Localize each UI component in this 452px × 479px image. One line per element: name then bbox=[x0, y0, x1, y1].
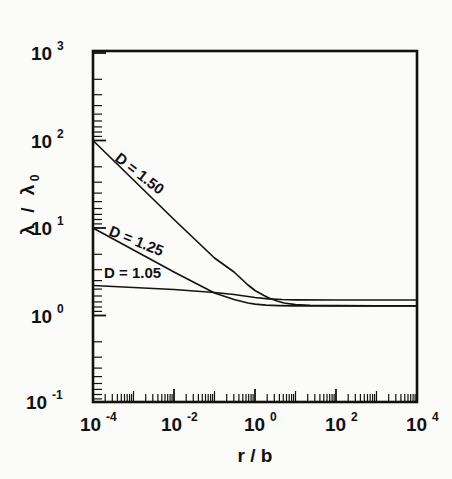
y-tick-exp-1e-1: -1 bbox=[52, 388, 63, 402]
y-tick-label-1e-1: 10 -1 bbox=[26, 388, 63, 413]
y-axis-minor-ticks bbox=[93, 79, 102, 399]
x-tick-label-1e2: 10 2 bbox=[325, 410, 358, 435]
y-tick-exp-1e2: 2 bbox=[57, 127, 64, 141]
log-log-plot: 10 3 10 2 10 1 10 0 10 -1 10 bbox=[0, 0, 452, 479]
x-tick-exp-1e2: 2 bbox=[351, 410, 358, 424]
y-axis-title-numerator: λ bbox=[17, 224, 38, 235]
y-tick-base-1e0: 10 bbox=[31, 306, 52, 327]
curve-label-d-1-05: D = 1.05 bbox=[104, 264, 161, 281]
x-tick-base-1e4: 10 bbox=[406, 414, 427, 435]
x-tick-base-1e-4: 10 bbox=[80, 414, 101, 435]
x-tick-base-1e2: 10 bbox=[325, 414, 346, 435]
x-axis-tick-labels: 10 -4 10 -2 10 0 10 2 10 4 bbox=[80, 410, 439, 435]
y-tick-exp-1e0: 0 bbox=[57, 302, 64, 316]
curve-label-d-1-50: D = 1.50 bbox=[112, 149, 167, 198]
curve-label-d-1-25: D = 1.25 bbox=[107, 222, 166, 259]
y-tick-label-1e2: 10 2 bbox=[31, 127, 64, 152]
y-tick-base-1e2: 10 bbox=[31, 131, 52, 152]
x-tick-label-1e-4: 10 -4 bbox=[80, 410, 117, 435]
x-tick-label-1e0: 10 0 bbox=[244, 410, 277, 435]
x-axis-minor-ticks bbox=[105, 391, 415, 402]
y-tick-exp-1e3: 3 bbox=[57, 39, 64, 53]
y-tick-exp-1e1: 1 bbox=[57, 214, 64, 228]
x-tick-label-1e-2: 10 -2 bbox=[161, 410, 198, 435]
x-tick-label-1e4: 10 4 bbox=[406, 410, 439, 435]
x-axis-title-text: r / b bbox=[238, 445, 273, 466]
x-tick-exp-1e0: 0 bbox=[270, 410, 277, 424]
x-tick-base-1e0: 10 bbox=[244, 414, 265, 435]
x-axis-title: r / b bbox=[238, 445, 273, 466]
y-tick-label-1e0: 10 0 bbox=[31, 302, 64, 327]
x-axis-major-ticks bbox=[93, 389, 417, 402]
x-tick-base-1e-2: 10 bbox=[161, 414, 182, 435]
y-tick-base-1e-1: 10 bbox=[26, 392, 47, 413]
curve-label-d-1-50-text: D = 1.50 bbox=[112, 149, 167, 198]
y-axis-title-subscript: 0 bbox=[28, 174, 42, 181]
x-tick-exp-1e4: 4 bbox=[432, 410, 439, 424]
y-axis-title-denominator: λ bbox=[17, 184, 38, 195]
y-tick-label-1e3: 10 3 bbox=[31, 39, 64, 64]
figure-root: 10 3 10 2 10 1 10 0 10 -1 10 bbox=[0, 0, 452, 479]
curve-label-d-1-25-text: D = 1.25 bbox=[107, 222, 166, 259]
y-tick-base-1e3: 10 bbox=[31, 43, 52, 64]
x-tick-exp-1e-4: -4 bbox=[106, 410, 117, 424]
x-tick-exp-1e-2: -2 bbox=[187, 410, 198, 424]
y-axis-title-slash: / bbox=[17, 207, 38, 213]
curve-label-d-1-05-text: D = 1.05 bbox=[104, 264, 161, 281]
curve-d-1-05 bbox=[93, 286, 417, 301]
plot-frame bbox=[93, 51, 417, 402]
